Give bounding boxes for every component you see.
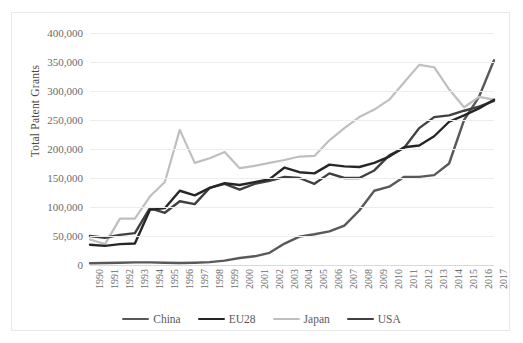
- x-tick-label: 1994: [154, 269, 165, 289]
- x-tick-label: 1995: [169, 269, 180, 289]
- gridline: [90, 120, 494, 121]
- x-tick-label: 2013: [438, 269, 449, 289]
- x-tick-label: 2007: [348, 269, 359, 289]
- legend-item-eu28[interactable]: EU28: [198, 313, 256, 325]
- x-tick-label: 2014: [453, 269, 464, 289]
- y-tick-label: 250,000: [47, 114, 83, 126]
- gridline: [90, 236, 494, 237]
- y-tick-label: 50,000: [53, 230, 83, 242]
- x-tick-label: 2011: [408, 269, 419, 289]
- y-tick-label: 0: [78, 259, 84, 271]
- x-tick-label: 2012: [423, 269, 434, 289]
- legend-swatch-icon: [198, 318, 225, 321]
- legend-swatch-icon: [273, 318, 300, 321]
- x-tick-label: 1999: [229, 269, 240, 289]
- x-tick-label: 2004: [303, 269, 314, 289]
- x-tick-label: 1993: [139, 269, 150, 289]
- legend-item-usa[interactable]: USA: [347, 313, 401, 325]
- y-tick-label: 150,000: [47, 172, 83, 184]
- x-tick-label: 2008: [363, 269, 374, 289]
- gridline: [90, 33, 494, 34]
- gridline: [90, 207, 494, 208]
- legend-item-japan[interactable]: Japan: [273, 313, 330, 325]
- y-tick-label: 100,000: [47, 201, 83, 213]
- legend-label: EU28: [229, 313, 256, 325]
- x-tick-label: 1998: [214, 269, 225, 289]
- legend-label: Japan: [304, 313, 330, 325]
- gridline: [90, 62, 494, 63]
- x-tick-label: 2005: [318, 269, 329, 289]
- x-tick-label: 2002: [274, 269, 285, 289]
- x-tick-label: 2017: [498, 269, 509, 289]
- series-line-eu28: [90, 100, 494, 246]
- legend-label: China: [153, 313, 180, 325]
- chart-container: Total Patent Grants 050,000100,000150,00…: [11, 12, 510, 331]
- y-axis-title: Total Patent Grants: [29, 36, 41, 186]
- legend-swatch-icon: [122, 318, 149, 321]
- x-tick-label: 2001: [259, 269, 270, 289]
- gridline: [90, 149, 494, 150]
- y-tick-label: 400,000: [47, 27, 83, 39]
- gridline: [90, 91, 494, 92]
- chart-legend: ChinaEU28JapanUSA: [12, 313, 511, 325]
- x-tick-label: 2003: [289, 269, 300, 289]
- x-tick-label: 2010: [393, 269, 404, 289]
- x-tick-label: 1997: [199, 269, 210, 289]
- gridline: [90, 178, 494, 179]
- plot-area: 050,000100,000150,000200,000250,000300,0…: [90, 33, 494, 265]
- x-tick-label: 2000: [244, 269, 255, 289]
- x-tick-label: 1992: [124, 269, 135, 289]
- x-tick-label: 2015: [468, 269, 479, 289]
- x-tick-label: 2016: [483, 269, 494, 289]
- legend-label: USA: [378, 313, 401, 325]
- x-tick-label: 1990: [94, 269, 105, 289]
- x-tick-label: 2006: [333, 269, 344, 289]
- x-tick-label: 1996: [184, 269, 195, 289]
- y-tick-label: 300,000: [47, 85, 83, 97]
- x-axis-ticks: 1990199119921993199419951996199719981999…: [90, 269, 494, 313]
- y-tick-label: 350,000: [47, 56, 83, 68]
- legend-swatch-icon: [347, 318, 374, 321]
- x-axis-line: [90, 265, 494, 266]
- y-tick-label: 200,000: [47, 143, 83, 155]
- x-tick-label: 2009: [378, 269, 389, 289]
- legend-item-china[interactable]: China: [122, 313, 180, 325]
- x-tick-label: 1991: [109, 269, 120, 289]
